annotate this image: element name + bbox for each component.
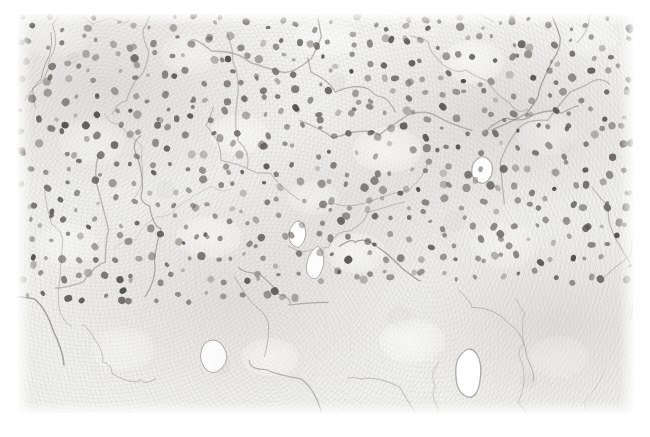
cell-nucleus: [46, 124, 56, 133]
cell-nucleus: [542, 195, 548, 202]
cell-nucleus: [367, 129, 376, 136]
cell-nucleus: [271, 66, 281, 76]
cell-nucleus: [477, 234, 485, 244]
cell-nucleus: [74, 208, 78, 213]
cell-nucleus: [553, 79, 560, 85]
cell-nucleus: [500, 272, 508, 280]
cell-nucleus: [411, 269, 418, 276]
cell-nucleus: [83, 135, 90, 142]
cell-nucleus: [291, 294, 298, 303]
cell-nucleus: [110, 141, 119, 150]
cell-nucleus: [60, 97, 71, 108]
cell-nucleus: [472, 274, 479, 281]
cell-nucleus: [56, 196, 64, 204]
cell-nucleus: [95, 201, 101, 206]
cell-nucleus: [75, 272, 82, 279]
cell-nucleus: [46, 14, 53, 20]
cell-nucleus: [283, 123, 290, 130]
cell-nucleus: [443, 144, 449, 149]
cell-nucleus: [135, 256, 143, 262]
cell-nucleus: [321, 54, 325, 59]
cell-nucleus: [408, 59, 417, 68]
cell-nucleus: [582, 180, 590, 189]
cell-nucleus: [296, 176, 306, 186]
cell-nucleus: [163, 144, 172, 153]
cell-nucleus: [523, 165, 531, 173]
cell-nucleus: [582, 256, 587, 261]
cell-nucleus: [387, 215, 393, 221]
cell-nucleus: [277, 107, 285, 115]
cell-nucleus: [289, 143, 295, 148]
cell-nucleus: [405, 94, 414, 103]
cell-nucleus: [536, 258, 546, 268]
cell-nucleus: [455, 144, 461, 150]
cell-nucleus: [91, 215, 98, 222]
cell-nucleus: [367, 61, 373, 68]
cell-nucleus: [319, 83, 322, 87]
cell-nucleus: [115, 51, 121, 57]
cell-nucleus: [410, 167, 415, 172]
cell-nucleus: [318, 199, 328, 209]
cell-nucleus: [238, 209, 243, 214]
cell-nucleus: [529, 74, 537, 82]
cell-nucleus: [422, 143, 431, 152]
cell-nucleus: [241, 251, 246, 256]
cell-nucleus: [90, 14, 97, 21]
cell-nucleus: [220, 293, 227, 300]
cell-nucleus: [229, 139, 237, 148]
cell-nucleus: [18, 108, 22, 112]
cell-nucleus: [327, 197, 335, 206]
cell-nucleus: [561, 216, 571, 227]
cell-nucleus: [514, 144, 520, 151]
cell-nucleus: [64, 74, 73, 83]
cell-nucleus: [147, 251, 157, 262]
cell-nucleus: [613, 232, 620, 239]
cell-nucleus: [206, 275, 215, 284]
cell-nucleus: [334, 108, 343, 117]
cell-nucleus: [582, 140, 589, 148]
cell-nucleus: [253, 54, 264, 65]
cell-nucleus: [201, 97, 209, 104]
cell-nucleus: [386, 140, 394, 148]
cell-nucleus: [461, 89, 467, 93]
cell-nucleus: [527, 97, 535, 105]
cell-nucleus: [452, 88, 461, 96]
cell-nucleus: [423, 116, 432, 124]
cell-nucleus: [472, 177, 478, 184]
cell-nucleus: [377, 184, 388, 195]
cell-nucleus: [315, 154, 322, 161]
cell-nucleus: [381, 74, 388, 83]
cell-nucleus: [181, 53, 186, 58]
cell-nucleus: [464, 131, 470, 137]
cell-nucleus: [261, 94, 267, 101]
cell-nucleus: [197, 251, 206, 260]
cell-nucleus: [382, 256, 390, 264]
cell-nucleus: [18, 39, 25, 46]
cell-nucleus: [149, 39, 157, 48]
cell-nucleus: [558, 86, 569, 97]
cell-nucleus: [609, 153, 617, 161]
cell-nucleus: [349, 51, 355, 57]
cell-nucleus: [306, 96, 314, 105]
cell-nucleus: [91, 53, 101, 62]
cell-nucleus: [422, 168, 428, 174]
cell-nucleus: [560, 153, 567, 161]
cell-nucleus: [57, 254, 68, 265]
cell-nucleus: [266, 26, 271, 30]
cell-nucleus: [94, 37, 98, 42]
cell-nucleus: [493, 208, 500, 215]
cell-nucleus: [273, 196, 280, 203]
cell-nucleus: [181, 130, 190, 139]
cell-nucleus: [573, 181, 580, 189]
cell-nucleus: [535, 223, 541, 229]
cell-nucleus: [625, 76, 633, 84]
cell-nucleus: [152, 50, 158, 56]
cell-nucleus: [147, 25, 151, 30]
cell-nucleus: [328, 19, 333, 25]
cell-nucleus: [582, 167, 589, 173]
cell-nucleus: [217, 14, 224, 21]
cell-nucleus: [281, 52, 287, 57]
cell-nucleus: [364, 237, 372, 245]
cell-nucleus: [83, 267, 95, 278]
cell-nucleus: [439, 252, 448, 261]
